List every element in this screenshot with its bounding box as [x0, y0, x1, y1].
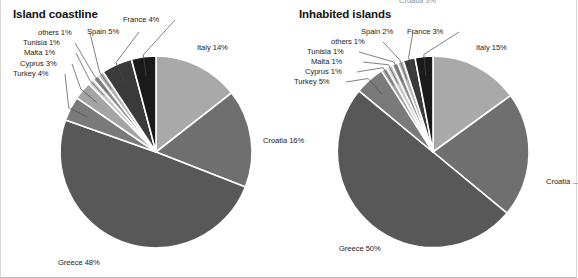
- pie-label-tunisia: Tunisia 1%: [307, 47, 344, 56]
- pie-label-croatia: Croatia ...: [546, 177, 578, 186]
- pie-label-italy: Italy 15%: [476, 43, 507, 52]
- pie-label-turkey: Turkey 4%: [13, 69, 49, 78]
- pie-label-greece: Greece 50%: [339, 244, 381, 253]
- pie-label-others: others 1%: [331, 37, 365, 46]
- pie-label-spain: Spain 5%: [87, 27, 119, 36]
- pie-label-cyprus: Cyprus 1%: [305, 67, 342, 76]
- pie-label-malta: Malta 1%: [24, 48, 55, 57]
- pie-label-france: France 3%: [407, 27, 443, 36]
- pie-label-tunisia: Tunisia 1%: [23, 38, 60, 47]
- pie-label-malta: Malta 1%: [311, 57, 342, 66]
- pie-label-turkey: Turkey 5%: [294, 77, 330, 86]
- pie-label-greece: Greece 48%: [58, 258, 100, 267]
- pie-label-spain: Spain 2%: [361, 27, 393, 36]
- chart-panel-island-coastline: Island coastline Italy 14%Croatia 16%Gre…: [1, 0, 289, 278]
- chart-panel-inhabited-islands: Inhabited islands Italy 15%Croatia ...Gr…: [289, 0, 577, 278]
- pie-label-others: others 1%: [38, 28, 72, 37]
- pie-label-france: France 4%: [123, 15, 159, 24]
- pie-label-italy: Italy 14%: [197, 43, 228, 52]
- pie-label-cyprus: Cyprus 3%: [20, 59, 57, 68]
